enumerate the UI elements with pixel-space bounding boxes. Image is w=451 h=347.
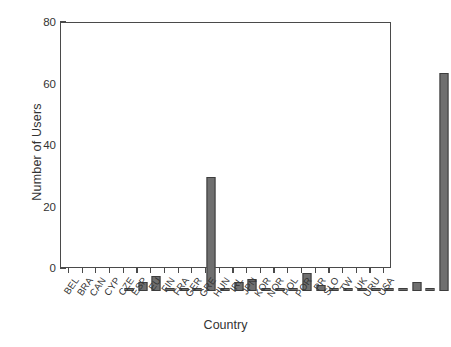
bar-slot [355,46,369,291]
bar-slot [369,46,383,291]
x-tick [301,268,302,273]
bar-slot [245,46,259,291]
bar-slot [287,46,301,291]
y-tick-label: 80 [16,16,56,28]
y-tick-label: 0 [16,262,56,274]
y-tick-label: 20 [16,201,56,213]
x-tick [136,268,137,273]
y-tick-label: 60 [16,78,56,90]
bar-slot [328,46,342,291]
bar-slot [122,46,136,291]
bar [440,73,449,291]
x-tick [109,268,110,273]
x-tick [219,268,220,273]
bar-slot [410,46,424,291]
bar [412,282,421,291]
x-tick [287,268,288,273]
plot-area [60,22,391,268]
x-tick [369,268,370,273]
bar-slot [218,46,232,291]
bar [426,288,435,291]
x-tick [246,268,247,273]
x-tick [95,268,96,273]
bar-slot [177,46,191,291]
bar-slot [136,46,150,291]
x-tick [260,268,261,273]
x-tick [82,268,83,273]
bar-slot [273,46,287,291]
bar-slot [232,46,246,291]
bar [207,177,216,291]
x-tick [328,268,329,273]
x-tick [150,268,151,273]
x-tick [383,268,384,273]
x-tick [123,268,124,273]
x-axis-title: Country [60,318,391,332]
bar-slot [163,46,177,291]
bar-slot [300,46,314,291]
x-tick [232,268,233,273]
bars-layer [122,46,451,291]
x-tick [68,268,69,273]
x-tick [342,268,343,273]
bar-slot [259,46,273,291]
bar [399,288,408,291]
x-tick [273,268,274,273]
x-tick [356,268,357,273]
bar-slot [314,46,328,291]
x-tick [178,268,179,273]
bar-slot [424,46,438,291]
x-tick [164,268,165,273]
x-tick [191,268,192,273]
bar-slot [204,46,218,291]
x-tick [315,268,316,273]
bar-slot [341,46,355,291]
bar-slot [149,46,163,291]
bar-slot [396,46,410,291]
bar-slot [382,46,396,291]
y-tick-label: 40 [16,139,56,151]
bar-slot [191,46,205,291]
bar-slot [437,46,451,291]
x-tick [205,268,206,273]
